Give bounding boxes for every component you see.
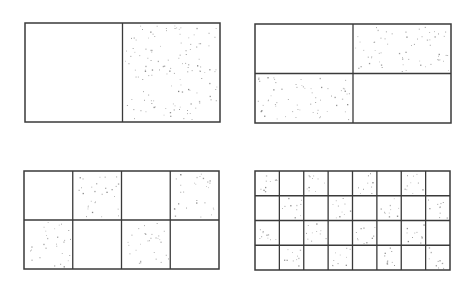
stippled-cell — [258, 77, 350, 120]
stippled-cell — [384, 248, 395, 266]
stippled-cell — [125, 26, 217, 121]
stippled-cell — [428, 200, 448, 219]
stippled-cell — [405, 174, 424, 194]
stippled-cell — [284, 249, 301, 266]
panel-thirty-seconds — [255, 171, 450, 270]
stippled-cell — [128, 223, 169, 264]
panel-quarters — [255, 24, 451, 123]
stippled-cell — [333, 198, 352, 218]
checkerboard-figure — [0, 0, 475, 288]
stippled-cell — [174, 174, 214, 218]
stippled-cell — [306, 223, 326, 241]
stippled-cell — [307, 175, 325, 192]
stippled-cell — [332, 248, 351, 266]
stippled-cell — [358, 173, 374, 194]
stippled-cell — [259, 229, 276, 240]
panel-halves — [25, 23, 220, 122]
stippled-cell — [30, 222, 71, 267]
stippled-cell — [355, 27, 449, 72]
panel-eighths — [24, 171, 219, 269]
stippled-cell — [407, 224, 425, 243]
stippled-cell — [79, 177, 120, 218]
stippled-cell — [282, 198, 302, 219]
stippled-cell — [381, 198, 400, 217]
stippled-cell — [356, 227, 375, 244]
stippled-cell — [261, 175, 278, 192]
stippled-cell — [429, 247, 444, 268]
